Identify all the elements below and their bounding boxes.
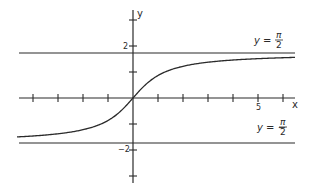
upper-asymptote-den: 2 <box>276 40 282 50</box>
lower-asymptote-num: π <box>280 117 286 127</box>
arctan-curve <box>17 57 295 137</box>
lower-asymptote-label: y = − π 2 <box>256 117 287 137</box>
x-axis-label: x <box>292 99 298 110</box>
lower-asymptote-den: 2 <box>280 127 286 137</box>
upper-asymptote-num: π <box>276 30 282 40</box>
y-tick-label-2: 2 <box>123 42 128 51</box>
arctan-plot: y x 2 −2 5 y = π 2 y = − π 2 <box>0 0 314 195</box>
y-axis-label: y <box>137 8 143 19</box>
y-tick-label-neg2: −2 <box>118 145 130 154</box>
upper-asymptote-lhs: y = <box>253 35 271 46</box>
upper-asymptote-label: y = π 2 <box>253 30 283 50</box>
x-tick-label-5: 5 <box>256 103 261 112</box>
